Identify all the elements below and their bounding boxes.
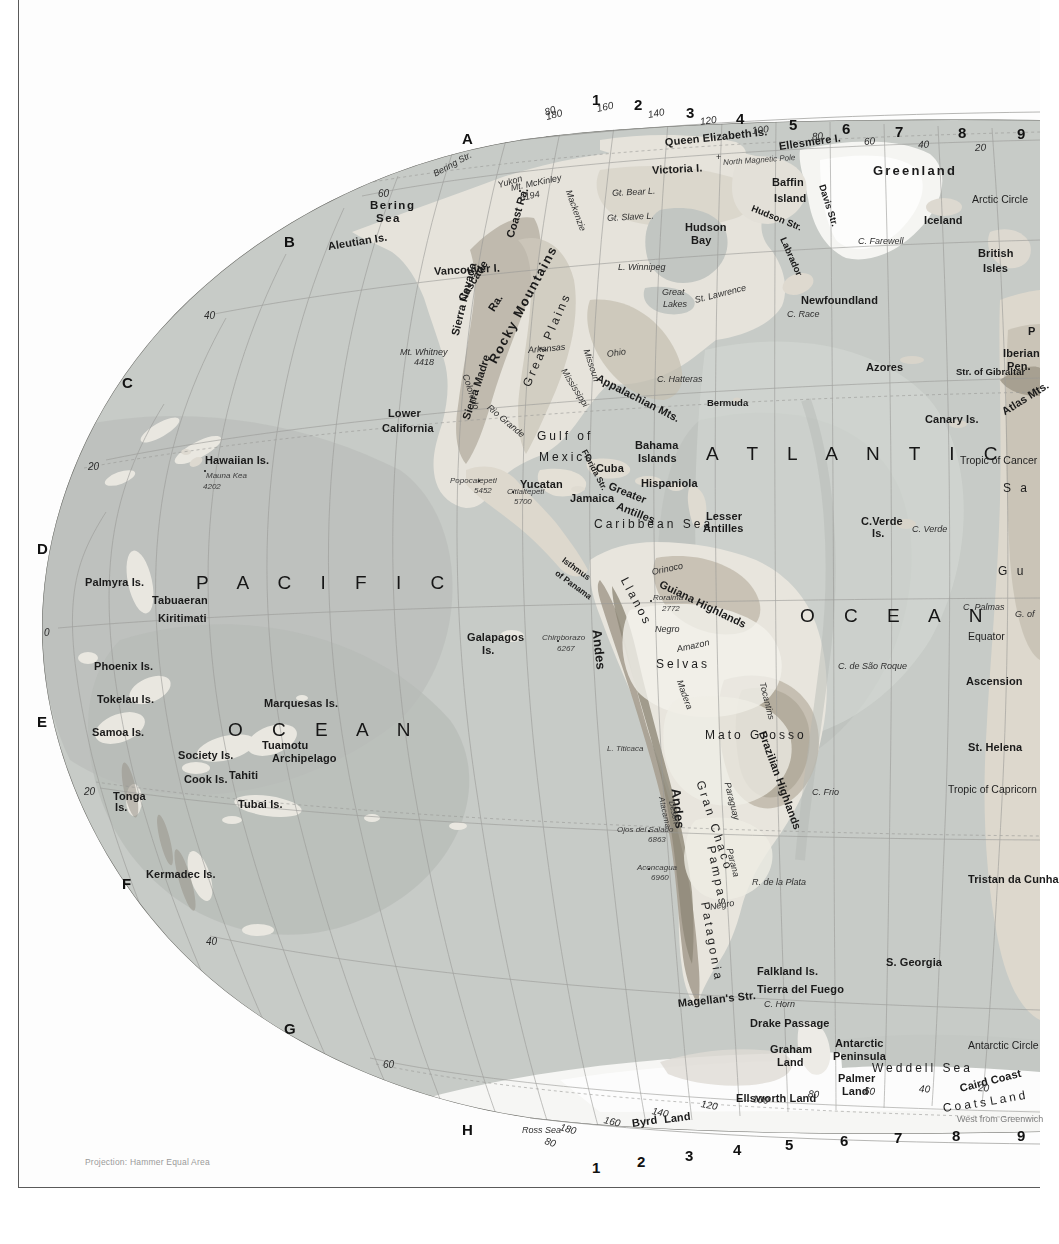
- ocean-base: [0, 80, 1040, 1160]
- peak-symbol: [648, 868, 650, 870]
- magnetic-pole-icon: +: [716, 152, 721, 162]
- peak-symbol: [478, 480, 480, 482]
- peak-symbol: [557, 640, 559, 642]
- peak-symbol: [650, 600, 652, 602]
- peak-symbol: [648, 830, 650, 832]
- peak-symbol: [204, 470, 206, 472]
- peak-symbol: [519, 190, 521, 192]
- peak-symbol: [512, 491, 514, 493]
